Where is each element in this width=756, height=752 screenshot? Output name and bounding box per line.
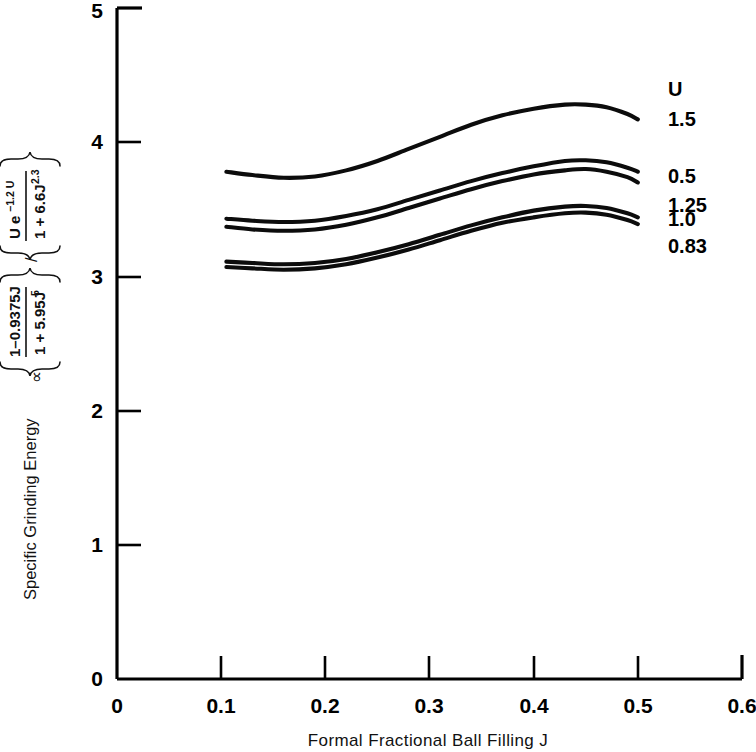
x-tick-label-5: 0.5 <box>623 694 653 717</box>
x-tick-label-2: 0.2 <box>310 694 339 717</box>
y-tick-marks <box>117 142 141 545</box>
y-tick-label-0: 0 <box>91 667 103 690</box>
y-label-numerator-2: U e <box>6 216 23 239</box>
x-tick-label-6: 0.6 <box>727 694 756 717</box>
legend-label-1.0: 1.0 <box>668 208 696 230</box>
x-tick-label-4: 0.4 <box>519 694 549 717</box>
legend-label-1.5: 1.5 <box>668 108 696 130</box>
x-axis-title: Formal Fractional Ball Filling J <box>308 731 548 750</box>
y-axis-label-group: Specific Grinding Energy ∝ 1–0.9375J 1 +… <box>0 152 60 600</box>
legend-labels: 1.50.51.251.00.83 <box>668 108 707 257</box>
y-label-numerator-2-exp: −1.2 U <box>4 181 16 212</box>
y-tick-labels: 0 1 2 3 4 5 <box>91 0 103 690</box>
y-label-denominator-1: 1 + 5.95J <box>31 292 48 355</box>
x-tick-marks <box>221 656 638 679</box>
legend-title: U <box>668 78 682 100</box>
y-tick-label-5: 5 <box>91 0 103 22</box>
x-tick-label-1: 0.1 <box>206 694 236 717</box>
y-axis-proportional-symbol: ∝ <box>27 371 45 383</box>
y-label-denominator-1-exp: 5 <box>29 290 41 296</box>
y-tick-label-2: 2 <box>91 399 103 422</box>
y-label-denominator-2: 1 + 6.6J <box>31 184 48 239</box>
y-label-denominator-2-exp: 2.3 <box>29 169 41 184</box>
chart-legend: U 1.50.51.251.00.83 <box>668 78 707 257</box>
chart-svg: Specific Grinding Energy ∝ 1–0.9375J 1 +… <box>0 0 756 752</box>
legend-label-0.5: 0.5 <box>668 165 696 187</box>
y-tick-label-3: 3 <box>91 265 103 288</box>
x-tick-label-3: 0.3 <box>414 694 443 717</box>
x-tick-label-0: 0 <box>111 694 123 717</box>
chart-figure: Specific Grinding Energy ∝ 1–0.9375J 1 +… <box>0 0 756 752</box>
y-label-numerator-1: 1–0.9375J <box>6 286 23 357</box>
legend-label-0.83: 0.83 <box>668 235 707 257</box>
y-axis-label-lead: Specific Grinding Energy <box>21 418 39 600</box>
y-tick-label-1: 1 <box>91 533 103 556</box>
y-tick-label-4: 4 <box>91 130 103 153</box>
curve-u-1.5 <box>226 104 637 178</box>
chart-curves <box>226 104 637 269</box>
x-tick-labels: 0 0.1 0.2 0.3 0.4 0.5 0.6 <box>111 694 756 717</box>
axes <box>117 8 742 679</box>
